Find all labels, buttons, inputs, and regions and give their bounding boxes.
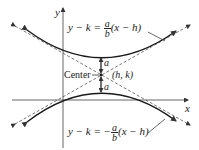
center-label: Center	[64, 70, 91, 80]
equation-lhs: y − k =	[68, 21, 104, 33]
hyperbola-lower-branch	[27, 93, 176, 122]
y-axis-label: y	[55, 7, 60, 18]
center-point	[100, 74, 103, 77]
semi-axis-upper-label: a	[104, 58, 109, 68]
center-coordinates: (h, k)	[112, 70, 133, 80]
upper-asymptote-equation: y − k = ab(x − h)	[68, 19, 141, 38]
fraction: ab	[104, 19, 111, 38]
lower-equation-leader	[148, 119, 165, 133]
fraction: ab	[111, 123, 118, 142]
fraction-denominator: b	[111, 133, 118, 142]
equation-rhs: (x − h)	[111, 21, 142, 33]
equation-lhs: y − k = −	[68, 125, 111, 137]
lower-asymptote-equation: y − k = −ab(x − h)	[68, 123, 149, 142]
asymptote-negative	[15, 26, 190, 125]
fraction-denominator: b	[104, 29, 111, 38]
semi-axis-lower-label: a	[104, 82, 109, 92]
x-axis-label: x	[185, 103, 190, 114]
upper-equation-leader	[148, 32, 165, 41]
equation-rhs: (x − h)	[118, 125, 149, 137]
